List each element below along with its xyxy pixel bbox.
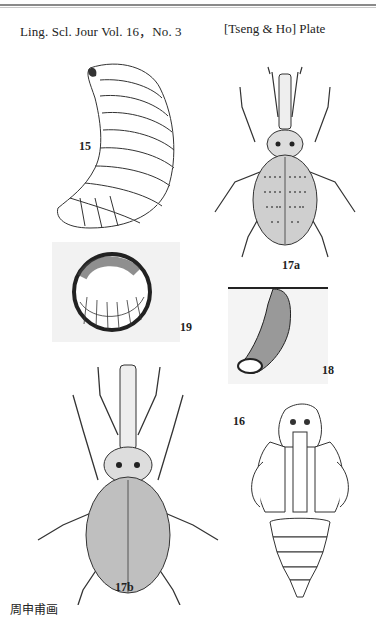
pupa-illustration xyxy=(245,402,355,607)
figure-label-18: 18 xyxy=(322,363,334,378)
journal-header: Ling. Scl. Jour Vol. 16，No. 3 xyxy=(20,21,182,40)
figure-label-17a: 17a xyxy=(282,258,300,273)
figure-label-19: 19 xyxy=(180,320,192,335)
plate-header: [Tseng & Ho] Plate xyxy=(224,21,325,37)
figure-16-pupa xyxy=(245,402,355,607)
figure-15-larva xyxy=(50,58,180,233)
weevil-illustration-b xyxy=(28,355,228,605)
illustrator-signature: 周申甫画 xyxy=(10,600,58,617)
figure-18-pupal-chamber xyxy=(228,284,328,384)
figure-17a-weevil xyxy=(200,62,370,262)
top-rule xyxy=(0,4,376,6)
larva-illustration xyxy=(50,58,180,233)
figure-17b-weevil xyxy=(28,355,228,605)
top-rule-thin xyxy=(0,7,376,8)
figure-label-16: 16 xyxy=(233,414,245,429)
burrow-illustration xyxy=(228,284,328,384)
soil-cell-illustration xyxy=(52,242,180,342)
weevil-illustration xyxy=(200,62,370,262)
figure-19-larva-in-cell xyxy=(52,242,180,342)
figure-label-15: 15 xyxy=(79,139,91,154)
figure-label-17b: 17b xyxy=(115,580,134,595)
